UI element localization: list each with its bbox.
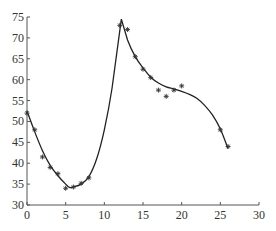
tick-labels: 05101520253030354045505560657075 <box>12 10 265 222</box>
data-point-marker <box>117 23 122 28</box>
data-markers <box>25 23 231 191</box>
data-point-marker <box>218 127 223 132</box>
y-tick-label: 55 <box>12 94 24 108</box>
x-tick-label: 25 <box>214 208 226 222</box>
data-point-marker <box>125 27 130 32</box>
data-point-marker <box>171 88 176 93</box>
data-point-marker <box>79 181 84 186</box>
data-point-marker <box>141 67 146 72</box>
y-tick-label: 60 <box>12 73 24 87</box>
data-point-marker <box>25 111 30 116</box>
data-point-marker <box>164 94 169 99</box>
x-tick-label: 20 <box>176 208 188 222</box>
axes <box>27 17 259 205</box>
x-tick-label: 30 <box>253 208 265 222</box>
y-tick-label: 45 <box>12 135 24 149</box>
data-point-marker <box>226 144 231 149</box>
y-tick-label: 40 <box>12 156 24 170</box>
data-point-marker <box>148 75 153 80</box>
x-tick-label: 0 <box>24 208 30 222</box>
chart: 05101520253030354045505560657075 <box>0 0 276 231</box>
data-point-marker <box>32 127 37 132</box>
y-tick-label: 35 <box>12 177 24 191</box>
x-tick-label: 10 <box>98 208 110 222</box>
y-tick-label: 70 <box>12 31 24 45</box>
data-point-marker <box>55 171 60 176</box>
y-tick-label: 50 <box>12 114 24 128</box>
data-point-marker <box>86 175 91 180</box>
data-point-marker <box>40 154 45 159</box>
data-point-marker <box>71 185 76 190</box>
data-point-marker <box>48 165 53 170</box>
data-point-marker <box>179 83 184 88</box>
data-point-marker <box>133 54 138 59</box>
y-tick-label: 75 <box>12 10 24 24</box>
x-tick-label: 15 <box>137 208 149 222</box>
data-point-marker <box>63 186 68 191</box>
data-point-marker <box>156 88 161 93</box>
x-tick-label: 5 <box>63 208 69 222</box>
fitted-curve <box>27 19 228 188</box>
y-tick-label: 65 <box>12 52 24 66</box>
y-tick-label: 30 <box>12 198 24 212</box>
